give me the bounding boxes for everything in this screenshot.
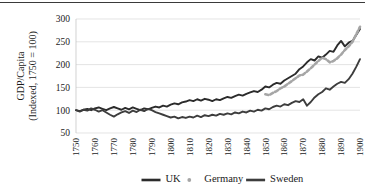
y-tick-label-100: 100 [56, 106, 71, 116]
x-tick-label-1890: 1890 [336, 138, 346, 157]
legend-label-uk: UK [166, 173, 182, 184]
x-tick-label-1780: 1780 [128, 138, 138, 157]
x-tick-label-1810: 1810 [185, 138, 195, 157]
gdp-per-capita-line-chart: 50100150200250300 1750176017701780179018… [0, 0, 365, 189]
legend-label-sweden: Sweden [270, 173, 304, 184]
y-tick-label-50: 50 [61, 128, 71, 138]
y-axis-title-line1: GDP/Capita [15, 51, 26, 100]
gridlines-group [76, 19, 360, 133]
x-tick-label-1830: 1830 [223, 138, 233, 157]
x-tick-label-1750: 1750 [71, 138, 81, 157]
x-tick-label-1870: 1870 [298, 138, 308, 157]
x-tick-label-1850: 1850 [261, 138, 271, 157]
x-tick-label-1880: 1880 [317, 138, 327, 157]
x-tick-label-1790: 1790 [147, 138, 157, 157]
x-tick-label-1820: 1820 [204, 138, 214, 157]
series-line-uk [76, 29, 360, 111]
series-line-germany [265, 27, 360, 95]
legend-item-germany[interactable]: Germany [187, 173, 244, 184]
y-axis-title-group: GDP/Capita (Indexed, 1750 = 100) [15, 31, 39, 121]
y-tick-label-300: 300 [56, 14, 71, 24]
y-tick-label-200: 200 [56, 60, 71, 70]
x-tick-label-1840: 1840 [242, 138, 252, 157]
x-tick-label-1900: 1900 [355, 138, 365, 157]
chart-figure: 50100150200250300 1750176017701780179018… [0, 0, 365, 189]
legend-swatch-dot-germany [187, 178, 191, 182]
series-lines-group [76, 27, 360, 119]
y-tick-label-250: 250 [56, 37, 71, 47]
x-tick-label-1760: 1760 [90, 138, 100, 157]
x-axis-tick-labels: 1750176017701780179018001810182018301840… [71, 138, 365, 157]
legend-item-sweden[interactable]: Sweden [246, 173, 304, 184]
legend-label-germany: Germany [204, 173, 244, 184]
x-tick-label-1770: 1770 [109, 138, 119, 157]
legend-item-uk[interactable]: UK [142, 173, 182, 184]
y-axis-title-line2: (Indexed, 1750 = 100) [27, 31, 39, 121]
y-tick-label-150: 150 [56, 83, 71, 93]
x-tick-label-1860: 1860 [279, 138, 289, 157]
y-axis-tick-labels: 50100150200250300 [56, 14, 71, 138]
chart-legend: UKGermanySweden [142, 173, 305, 184]
x-tick-label-1800: 1800 [166, 138, 176, 157]
